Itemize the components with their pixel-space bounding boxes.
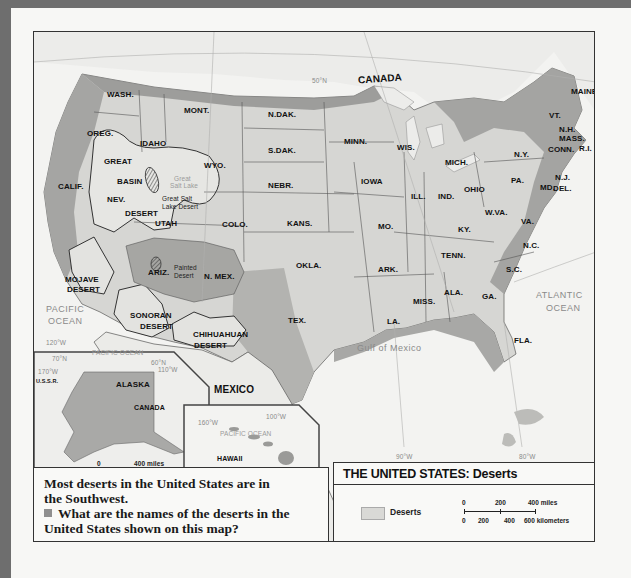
state-label-w-va: W.VA.: [485, 208, 508, 217]
lake-label-salt-lake: Salt Lake: [170, 182, 198, 189]
state-label-s-dak: S.DAK.: [268, 146, 296, 155]
desert-label-desert: DESERT: [194, 341, 227, 350]
ussr-label: U.S.S.R.: [36, 378, 58, 384]
alaska-scale-miles: 400 miles: [134, 460, 164, 467]
grid-label-50-n: 50°N: [312, 77, 327, 84]
state-label-mass: MASS.: [559, 134, 585, 143]
alaska-ocean-label: PACIFIC OCEAN: [92, 349, 143, 356]
grid-label-100-w: 100°W: [266, 413, 286, 420]
grid-label-90-w: 90°W: [396, 453, 412, 460]
state-label-okla: OKLA.: [296, 261, 321, 270]
caption-question-text: What are the names of the deserts in the…: [44, 506, 289, 536]
alaska-grid-170w: 170°W: [38, 368, 58, 375]
state-label-ky: KY.: [458, 225, 471, 234]
state-label-mo: MO.: [378, 222, 393, 231]
state-label-mont: MONT.: [184, 106, 209, 115]
desert-swatch-label: Deserts: [390, 507, 421, 517]
desert-label-sonoran: SONORAN: [130, 311, 172, 320]
desert-swatch: [361, 507, 385, 520]
state-label-n-y: N.Y.: [514, 150, 529, 159]
desert-sublabel-lake-desert: Lake Desert: [162, 203, 198, 210]
scale-miles-400: 400 miles: [528, 499, 557, 506]
scale-tick: [500, 509, 501, 514]
scale-km-200: 200: [478, 517, 489, 524]
state-label-calif: CALIF.: [58, 182, 84, 191]
alaska-grid-60n: 60°N: [151, 359, 166, 366]
ocean-label-ocean: OCEAN: [546, 303, 581, 313]
scale-tick: [464, 509, 465, 514]
state-label-la: LA.: [387, 317, 400, 326]
state-label-ohio: OHIO: [464, 185, 485, 194]
state-label-utah: UTAH: [155, 219, 177, 228]
state-label-del: DEL.: [553, 184, 572, 193]
state-label-ind: IND.: [438, 192, 454, 201]
left-border-bar: [0, 0, 11, 578]
hawaii-label: HAWAII: [217, 455, 243, 462]
scale-km-400: 400: [504, 517, 515, 524]
state-label-oreg: OREG.: [87, 129, 113, 138]
desert-sublabel-great-salt: Great Salt: [162, 195, 192, 202]
scale-km-0: 0: [462, 517, 466, 524]
desert-sublabel-desert: Desert: [174, 272, 194, 279]
state-label-kans: KANS.: [287, 219, 312, 228]
state-label-conn: CONN.: [548, 145, 574, 154]
alaska-label: ALASKA: [116, 380, 150, 389]
state-label-idaho: IDAHO: [140, 139, 166, 148]
desert-label-desert: DESERT: [125, 209, 158, 218]
hawaii-ocean-label: PACIFIC OCEAN: [220, 430, 271, 437]
legend-box: THE UNITED STATES: Deserts Deserts 0 200…: [333, 462, 595, 542]
state-label-tex: TEX.: [288, 316, 306, 325]
state-label-mich: MICH.: [445, 158, 468, 167]
state-label-wis: WIS.: [397, 143, 415, 152]
legend-scale-bar: 0 200 400 miles 0 200 400 600 kilometers: [462, 499, 582, 529]
state-label-nebr: NEBR.: [268, 181, 293, 190]
state-label-r-i: R.I.: [579, 144, 592, 153]
legend-title: THE UNITED STATES: Deserts: [334, 463, 594, 485]
state-label-minn: MINN.: [344, 137, 367, 146]
state-label-n-h: N.H.: [559, 125, 575, 134]
state-label-n-mex: N. MEX.: [204, 272, 234, 281]
caption-question: What are the names of the deserts in the…: [44, 506, 329, 536]
scale-miles-200: 200: [495, 499, 506, 506]
desert-label-mojave: MOJAVE: [65, 275, 99, 284]
state-label-ga: GA.: [482, 292, 497, 301]
top-border-bar: [0, 0, 631, 8]
alaska-grid-70n: 70°N: [52, 355, 67, 362]
country-label-mexico: MEXICO: [214, 384, 254, 395]
state-label-ala: ALA.: [444, 288, 463, 297]
state-label-nev: NEV.: [107, 195, 125, 204]
alaska-scale-zero-miles: 0: [97, 460, 101, 467]
state-label-miss: MISS.: [413, 297, 435, 306]
desert-label-great: GREAT: [104, 157, 132, 166]
state-label-n-c: N.C.: [523, 241, 539, 250]
state-label-tenn: TENN.: [441, 251, 466, 260]
desert-label-desert: DESERT: [67, 285, 100, 294]
state-label-ariz: ARIZ.: [148, 268, 169, 277]
state-label-wash: WASH.: [107, 90, 134, 99]
square-bullet-icon: [44, 509, 52, 517]
caption-statement: Most deserts in the United States are in…: [44, 476, 274, 506]
state-label-s-c: S.C.: [506, 265, 522, 274]
lake-label-great: Great: [174, 175, 191, 182]
scale-km-600: 600 kilometers: [524, 517, 569, 524]
desert-label-chihuahuan: CHIHUAHUAN: [193, 330, 248, 339]
desert-label-desert: DESERT: [140, 322, 173, 331]
desert-sublabel-painted: Painted: [174, 264, 197, 271]
alaska-grid-110w: 110°W: [158, 366, 178, 373]
state-label-ill: ILL.: [411, 192, 426, 201]
ocean-label-pacific: PACIFIC: [46, 304, 84, 314]
ocean-label-gulf-of-mexico: Gulf of Mexico: [357, 343, 422, 353]
state-label-maine: MAINE: [571, 87, 595, 96]
caption-box: Most deserts in the United States are in…: [33, 467, 329, 542]
grid-label-120-w: 120°W: [46, 339, 66, 346]
state-label-va: VA.: [521, 217, 534, 226]
scale-miles-0: 0: [462, 499, 466, 506]
state-label-ark: ARK.: [378, 265, 398, 274]
desert-label-basin: BASIN: [117, 177, 142, 186]
state-label-n-j: N.J.: [555, 173, 570, 182]
state-label-fla: FLA.: [514, 336, 532, 345]
hawaii-grid-160w: 160°W: [198, 419, 218, 426]
scale-tick: [535, 509, 536, 514]
state-label-pa: PA.: [511, 176, 524, 185]
grid-label-80-w: 80°W: [519, 453, 535, 460]
